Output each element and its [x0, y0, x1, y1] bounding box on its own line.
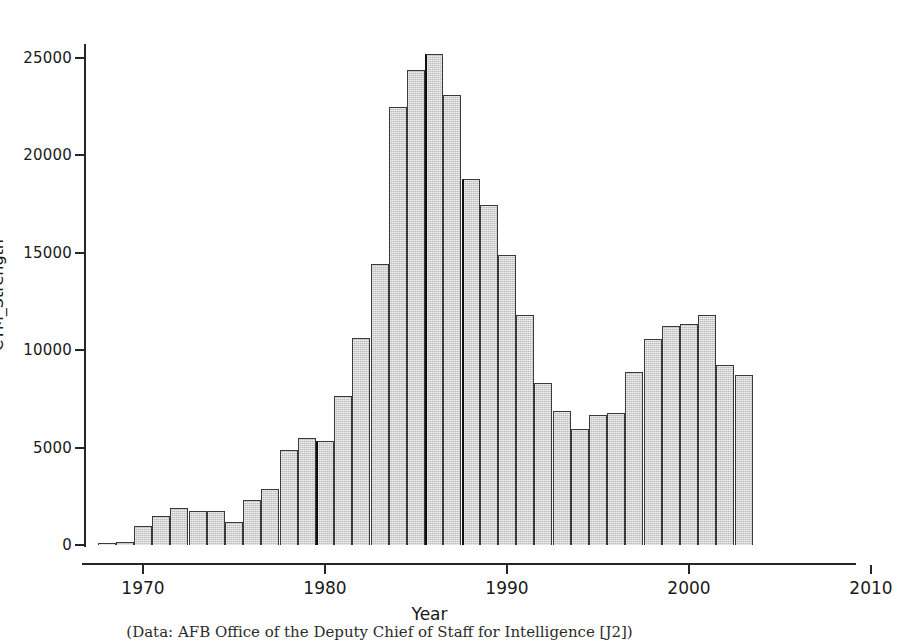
- bar: [316, 441, 334, 545]
- bar: [698, 315, 716, 545]
- bar: [607, 413, 625, 545]
- bar: [170, 508, 188, 545]
- bar: [98, 543, 116, 545]
- bar: [116, 542, 134, 545]
- bar: [407, 70, 425, 545]
- bar: [207, 511, 225, 545]
- bar: [152, 516, 170, 545]
- bar: [352, 338, 370, 545]
- x-axis-title-text: Year: [412, 604, 448, 624]
- figure-caption-text: (Data: AFB Office of the Deputy Chief of…: [126, 623, 632, 641]
- bar: [680, 324, 698, 545]
- bar: [498, 255, 516, 545]
- bar: [280, 450, 298, 545]
- bar: [571, 429, 589, 545]
- bar: [261, 489, 279, 545]
- bar: [644, 339, 662, 545]
- bar: [298, 438, 316, 545]
- bar: [480, 205, 498, 545]
- bar: [553, 411, 571, 545]
- bar: [371, 264, 389, 545]
- bar: [462, 179, 480, 545]
- bar-series: [0, 0, 899, 641]
- bar: [516, 315, 534, 545]
- bar: [735, 375, 753, 545]
- bar: [716, 365, 734, 545]
- bar: [625, 372, 643, 545]
- bar: [443, 95, 461, 545]
- figure-caption: (Data: AFB Office of the Deputy Chief of…: [0, 623, 899, 641]
- x-axis-title: Year: [0, 604, 899, 624]
- bar: [134, 526, 152, 545]
- bar: [534, 383, 552, 545]
- bar: [225, 522, 243, 545]
- bar: [389, 107, 407, 545]
- bar: [589, 415, 607, 545]
- bar: [189, 511, 207, 545]
- bar: [662, 326, 680, 545]
- bar: [243, 500, 261, 545]
- bar: [334, 396, 352, 545]
- histogram-figure: CTM_Strength 0500010000150002000025000 1…: [0, 0, 899, 641]
- bar: [425, 54, 443, 545]
